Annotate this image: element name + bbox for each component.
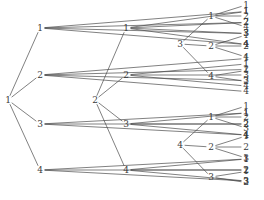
branch-label-tree2-4: 4 [123, 165, 129, 175]
edge-root-1-branch-3 [12, 103, 36, 121]
leaf-label-tree3-b2-l1: 1 [243, 30, 249, 40]
root-label-tree4: 4 [177, 140, 183, 150]
edge-branch-2-leaf-1 [131, 64, 241, 74]
edge-branch-3-leaf-1 [216, 172, 241, 176]
branch-label-tree4-2: 2 [208, 142, 214, 152]
leaf-label-tree3-b1-l2: 2 [243, 11, 249, 21]
root-label-tree3: 3 [177, 39, 183, 49]
edge-branch-2-leaf-4 [131, 75, 241, 85]
edge-branch-2-leaf-1 [216, 137, 241, 145]
leaf-label-tree4-b3-l1: 1 [243, 166, 249, 176]
edge-root-1-branch-4 [10, 105, 38, 166]
leaf-label-tree3-b2-l3: 4 [243, 52, 249, 62]
edge-branch-1-leaf-4 [216, 17, 241, 25]
leaf-label-tree3-b1-l1: 1 [243, 0, 249, 10]
leaf-label-tree4-b1-l2: 2 [243, 112, 249, 122]
branch-label-tree1-4: 4 [37, 165, 43, 175]
branch-label-tree2-3: 3 [123, 119, 129, 129]
edge-branch-1-leaf-1 [216, 6, 241, 14]
edge-branch-2-leaf-3 [216, 148, 241, 156]
edge-root-4-branch-2 [185, 145, 206, 146]
tree-diagram-canvas: 1234112342124312341123411342124312342124… [0, 0, 264, 200]
branch-label-tree4-3: 3 [208, 172, 214, 182]
branch-label-tree1-2: 2 [37, 70, 43, 80]
branch-label-tree2-2: 2 [123, 70, 129, 80]
edge-root-2-branch-3 [99, 103, 122, 121]
root-label-tree2: 2 [92, 95, 98, 105]
branch-label-tree2-1: 1 [123, 23, 129, 33]
edge-root-3-branch-2 [185, 44, 206, 45]
labels-layer: 1234112342124312341123411342124312342124… [5, 0, 249, 187]
branch-label-tree4-1: 1 [208, 112, 214, 122]
branch-label-tree1-1: 1 [37, 23, 43, 33]
edge-branch-4-leaf-1 [216, 71, 241, 75]
edge-root-1-branch-2 [12, 78, 36, 97]
edges-layer [10, 6, 241, 181]
branch-label-tree3-3: 4 [208, 71, 214, 81]
branch-label-tree3-1: 1 [208, 11, 214, 21]
branch-label-tree3-2: 2 [208, 41, 214, 51]
branch-label-tree1-3: 3 [37, 119, 43, 129]
edge-branch-2-leaf-4 [216, 47, 241, 55]
root-label-tree1: 1 [5, 95, 11, 105]
edge-root-1-branch-1 [10, 33, 38, 96]
leaf-label-tree4-b2-l3: 3 [243, 153, 249, 163]
edge-root-2-branch-1 [97, 33, 124, 96]
leaf-label-tree3-b2-l2: 2 [243, 41, 249, 51]
leaf-label-tree3-b3-l2: 2 [243, 76, 249, 86]
leaf-label-tree4-b2-l2: 2 [243, 142, 249, 152]
edge-branch-1-leaf-3 [216, 118, 241, 126]
leaf-label-tree4-b2-l1: 1 [243, 131, 249, 141]
leaf-label-tree4-b1-l1: 1 [243, 101, 249, 111]
leaf-label-tree3-b3-l1: 1 [243, 65, 249, 75]
edge-root-2-branch-4 [97, 105, 124, 166]
tree-forest-figure: 1234112342124312341123411342124312342124… [0, 0, 264, 200]
leaf-label-tree4-b3-l2: 2 [243, 177, 249, 187]
